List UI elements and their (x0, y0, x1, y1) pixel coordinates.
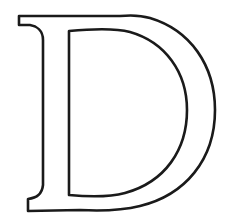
outlined-letter-d: D (0, 0, 227, 224)
letter-d-glyph-icon (0, 0, 227, 224)
